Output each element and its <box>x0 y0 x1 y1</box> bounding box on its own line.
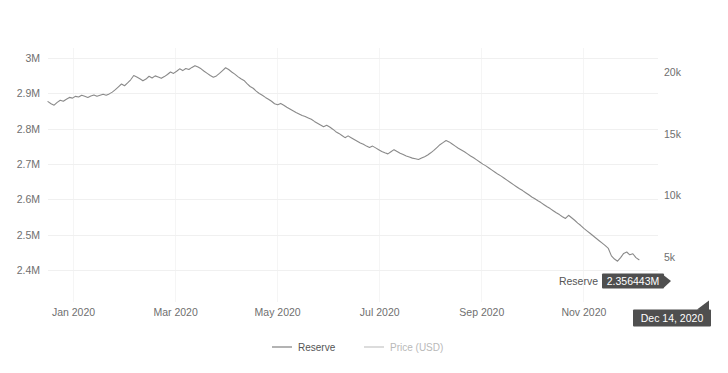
x-axis-tick-label: Nov 2020 <box>561 306 606 318</box>
legend-label[interactable]: Reserve <box>298 342 336 353</box>
right-axis-tick-label: 15k <box>664 128 682 140</box>
x-axis-tick-label: Sep 2020 <box>459 306 504 318</box>
left-axis-tick-label: 3M <box>25 52 40 64</box>
left-axis-tick-label: 2.8M <box>17 123 40 135</box>
x-axis-tick-label: Jul 2020 <box>360 306 400 318</box>
left-axis-tick-label: 2.6M <box>17 193 40 205</box>
tooltip-date-text: Dec 14, 2020 <box>641 312 704 324</box>
left-axis-tick-label: 2.9M <box>17 87 40 99</box>
right-axis-tick-label: 20k <box>664 66 682 78</box>
left-axis-tick-label: 2.4M <box>17 264 40 276</box>
x-axis-tick-label: Mar 2020 <box>153 306 198 318</box>
tooltip-value-text: 2.356443M <box>607 275 660 287</box>
right-axis-tick-label: 5k <box>664 251 676 263</box>
left-axis-tick-label: 2.5M <box>17 229 40 241</box>
reserve-price-line-chart[interactable]: 3M2.9M2.8M2.7M2.6M2.5M2.4M 20k15k10k5k J… <box>0 0 728 373</box>
chart-container: 3M2.9M2.8M2.7M2.6M2.5M2.4M 20k15k10k5k J… <box>0 0 728 373</box>
legend-label[interactable]: Price (USD) <box>390 342 443 353</box>
left-axis-tick-label: 2.7M <box>17 158 40 170</box>
tooltip-series-label: Reserve <box>559 275 598 287</box>
right-axis-tick-label: 10k <box>664 189 682 201</box>
x-axis-tick-label: Jan 2020 <box>52 306 95 318</box>
x-axis-tick-label: May 2020 <box>255 306 301 318</box>
